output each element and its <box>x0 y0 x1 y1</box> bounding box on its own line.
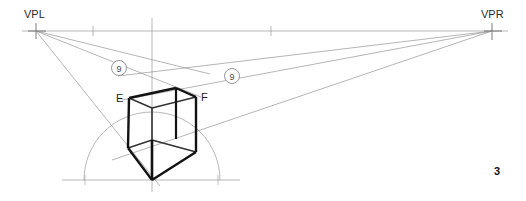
cube-edge-vertical-left <box>128 98 129 148</box>
measure-marker-label: 9 <box>116 64 121 74</box>
cube-hidden-edge-top-front-right <box>152 97 196 108</box>
construction-lines-group <box>22 18 508 192</box>
cube-hidden-edge-top-front-left <box>129 98 152 108</box>
cube-hidden-edges-group <box>128 97 196 152</box>
measure-marker-label: 9 <box>229 72 234 82</box>
vpr-projection-line-top <box>118 31 492 76</box>
cube-hidden-edge-bottom-front-right <box>152 140 196 152</box>
vertex-label-f: F <box>201 91 208 103</box>
cube-edge-bottom-left-front <box>128 148 152 180</box>
page-number: 3 <box>494 165 500 177</box>
cube-edge-top-back-right <box>176 88 196 97</box>
cube-edge-top-left-back <box>129 88 176 98</box>
measure-marker-right: 9 <box>225 69 240 84</box>
vpr-projection-line-lower <box>112 31 492 160</box>
vpl-projection-line-lower <box>36 31 160 186</box>
cube-edge-bottom-front-right <box>152 152 196 180</box>
perspective-construction-canvas: 9 9 VPL VPR E F 3 <box>0 0 526 201</box>
vpr-label: VPR <box>481 8 504 20</box>
vertex-label-e: E <box>116 92 123 104</box>
cube-hidden-edge-bottom-front-left <box>128 140 152 148</box>
vpl-label: VPL <box>24 8 45 20</box>
perspective-diagram: 9 9 VPL VPR E F 3 <box>0 0 526 201</box>
measure-marker-left: 9 <box>112 61 127 76</box>
